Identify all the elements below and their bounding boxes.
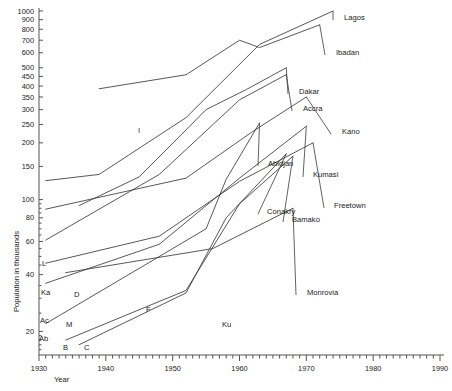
leader-line-abidjan: [258, 123, 260, 166]
series-line-dakar: [79, 68, 286, 206]
series-label-abidjan: Abidjan: [268, 159, 293, 168]
y-tick-label: 200: [22, 138, 34, 147]
series-short-label-kano: Ka: [41, 288, 51, 297]
series-short-label-lagos: L: [42, 259, 46, 268]
series-label-freetown: Freetown: [334, 201, 366, 210]
series-label-bamako: Bamako: [292, 215, 320, 224]
leader-line-kano: [306, 97, 331, 134]
y-tick-label: 600: [22, 48, 34, 57]
y-tick-label: 500: [22, 63, 34, 72]
x-tick-label: 1950: [164, 364, 180, 373]
y-tick-label: 150: [22, 162, 34, 171]
y-tick-label: 800: [22, 25, 34, 34]
y-tick-label: 40: [26, 270, 34, 279]
y-tick-label: 900: [22, 15, 34, 24]
leader-line-kumasi: [303, 126, 306, 177]
y-tick-label: 80: [26, 213, 34, 222]
x-tick-label: 1990: [432, 364, 448, 373]
y-tick-label: 350: [22, 93, 34, 102]
x-tick-label: 1960: [231, 364, 247, 373]
series-short-label-freetown: F: [146, 305, 151, 314]
series-label-kumasi: Kumasi: [313, 170, 339, 179]
x-tick-label: 1930: [31, 364, 47, 373]
y-tick-label: 300: [22, 105, 34, 114]
series-label-kano: Kano: [342, 127, 360, 136]
y-tick-label: 400: [22, 82, 34, 91]
chart-canvas: 2040608010015020025030035040045050060070…: [0, 0, 452, 391]
series-short-label-bamako: B: [63, 343, 68, 352]
series-line-monrovia: [66, 208, 293, 272]
leader-line-accra: [286, 75, 292, 111]
series-line-bamako: [66, 156, 293, 340]
y-axis-title: Population in thousands: [12, 231, 21, 312]
series-label-dakar: Dakar: [299, 87, 320, 96]
series-short-label-monrovia: M: [66, 320, 72, 329]
series-short-label-conakry: C: [84, 343, 90, 352]
x-tick-label: 1940: [98, 364, 114, 373]
series-lines: [46, 11, 333, 345]
series-label-ibadan: Ibadan: [336, 48, 359, 57]
y-tick-label: 700: [22, 36, 34, 45]
series-short-label-accra: Ac: [40, 316, 49, 325]
x-tick-label: 1980: [365, 364, 381, 373]
x-axis: 1930194019501960197019801990: [31, 355, 448, 373]
series-line-kano: [46, 97, 307, 209]
y-tick-label: 450: [22, 72, 34, 81]
series-line-kumasi: [46, 126, 307, 283]
series-line-accra: [46, 75, 287, 240]
series-short-label-dakar: D: [74, 290, 80, 299]
series-short-label-ibadan: I: [138, 126, 140, 135]
series-label-accra: Accra: [303, 104, 323, 113]
y-tick-label: 1000: [18, 7, 34, 16]
series-short-label-abidjan: Ab: [39, 334, 48, 343]
y-tick-label: 250: [22, 120, 34, 129]
series-label-lagos: Lagos: [344, 13, 365, 22]
x-axis-title: Year: [54, 375, 70, 384]
y-axis: 2040608010015020025030035040045050060070…: [18, 7, 43, 355]
y-tick-label: 60: [26, 237, 34, 246]
series-line-conakry: [79, 154, 286, 345]
y-tick-label: 20: [26, 327, 34, 336]
population-growth-line-chart: 2040608010015020025030035040045050060070…: [0, 0, 452, 391]
series-short-label-kumasi: Ku: [222, 320, 231, 329]
leader-line-ibadan: [320, 25, 325, 55]
series-label-monrovia: Monrovia: [307, 288, 339, 297]
y-tick-label: 100: [22, 195, 34, 204]
x-tick-label: 1970: [298, 364, 314, 373]
